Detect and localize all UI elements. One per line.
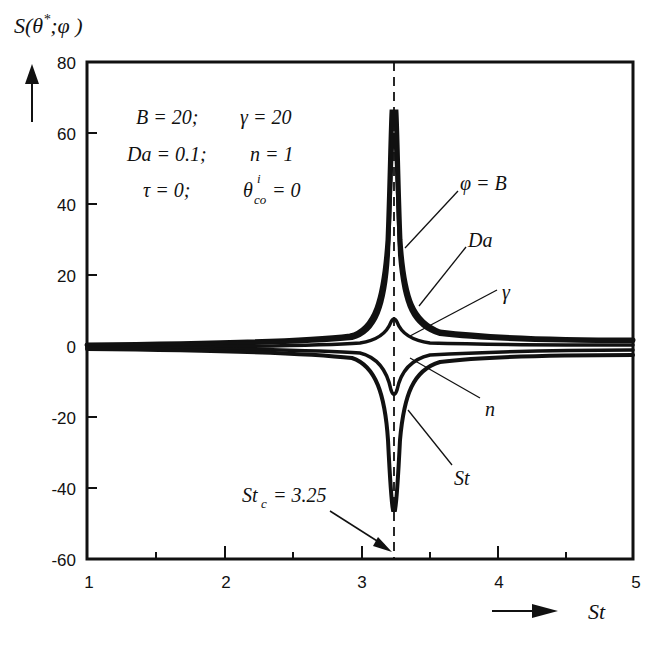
x-tick-label: 2: [221, 573, 230, 592]
critical-label-value: = 3.25: [273, 484, 327, 506]
x-tick-labels: 1 2 3 4 5: [84, 573, 640, 592]
parameters-block: B = 20; γ = 20 Da = 0.1; n = 1 τ = 0; θ …: [126, 106, 301, 207]
critical-label-sub: c: [261, 496, 267, 511]
x-tick-label: 4: [494, 573, 503, 592]
y-tick-labels: 80 60 40 20 0 -20 -40 -60: [51, 54, 76, 570]
y-tick-label: 80: [57, 54, 76, 73]
x-tick-label: 1: [84, 573, 93, 592]
curve-Da: [87, 135, 633, 346]
label-St: St: [454, 467, 470, 489]
param-gamma: γ = 20: [240, 106, 291, 129]
param-theta: θ: [243, 179, 253, 201]
y-axis-arrow-icon: [25, 64, 39, 122]
param-Da: Da = 0.1;: [126, 143, 207, 165]
curve-St: [87, 349, 633, 510]
param-B: B = 20;: [136, 106, 198, 128]
critical-label-main: St: [242, 484, 258, 506]
label-Da: Da: [467, 229, 492, 251]
param-tau: τ = 0;: [143, 179, 190, 201]
x-axis-arrow-icon: [492, 604, 558, 618]
chart-figure: S(θ*;φ ) 80 60 40 20 0 -20 -40 -60 1: [0, 0, 657, 647]
y-tick-label: 40: [57, 196, 76, 215]
plot-frame: [87, 62, 633, 559]
x-ticks: [156, 546, 566, 559]
curve-labels: φ = B Da γ n St: [405, 172, 511, 489]
x-tick-label: 5: [631, 573, 640, 592]
y-axis-label: S(θ*;φ ): [14, 12, 82, 38]
y-tick-label: -40: [51, 480, 76, 499]
critical-arrow-icon: [373, 537, 392, 552]
param-theta-value: = 0: [272, 179, 301, 201]
label-phi-B: φ = B: [460, 172, 507, 195]
x-axis-label: St: [588, 599, 606, 624]
param-theta-sup: i: [257, 171, 261, 186]
y-tick-label: -20: [51, 409, 76, 428]
x-tick-label: 3: [357, 573, 366, 592]
curves: [87, 112, 633, 510]
label-gamma: γ: [502, 281, 511, 304]
y-tick-label: -60: [51, 551, 76, 570]
critical-annotation: St c = 3.25: [242, 484, 392, 552]
param-n: n = 1: [250, 143, 294, 165]
y-tick-label: 0: [67, 338, 76, 357]
y-tick-label: 60: [57, 125, 76, 144]
param-theta-sub: co: [254, 192, 267, 207]
y-tick-label: 20: [57, 267, 76, 286]
label-n: n: [485, 398, 495, 420]
